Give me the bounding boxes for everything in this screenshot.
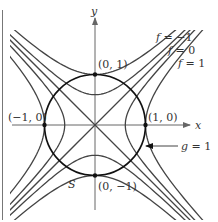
g-label: g = 1 (181, 140, 211, 153)
g-label-value: = 1 (188, 140, 211, 153)
point-bottom-label: (0, −1) (98, 180, 137, 193)
level-curves-diagram: x y g = 1 f = −1 f = 0 f = 1 (0, 1) (1, … (0, 0, 218, 222)
f-label-0: f = 0 (167, 44, 195, 57)
x-axis-label: x (195, 119, 202, 132)
point-right-label: (1, 0) (148, 111, 178, 124)
point-top (93, 72, 97, 76)
f-label-minus1: f = −1 (155, 31, 193, 44)
f-label-1: f = 1 (177, 57, 205, 70)
point-top-label: (0, 1) (98, 58, 128, 71)
set-label-S: S (68, 178, 76, 191)
point-bottom (93, 173, 97, 177)
point-left-label: (−1, 0) (8, 111, 47, 124)
y-axis-label: y (90, 5, 98, 18)
